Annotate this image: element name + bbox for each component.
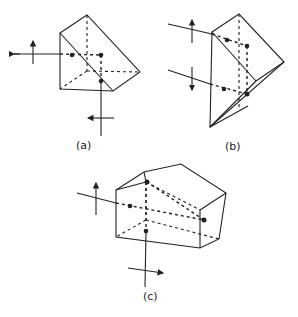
diagram-canvas	[0, 0, 298, 317]
figure-label-b: (b)	[225, 140, 241, 153]
figure-label-a: (a)	[76, 139, 91, 152]
prism-c	[77, 164, 226, 287]
prism-a	[14, 15, 140, 136]
figure-label-c: (c)	[143, 290, 158, 303]
prism-b	[168, 14, 284, 127]
prism-diagram: (a) (b) (c)	[0, 0, 298, 317]
